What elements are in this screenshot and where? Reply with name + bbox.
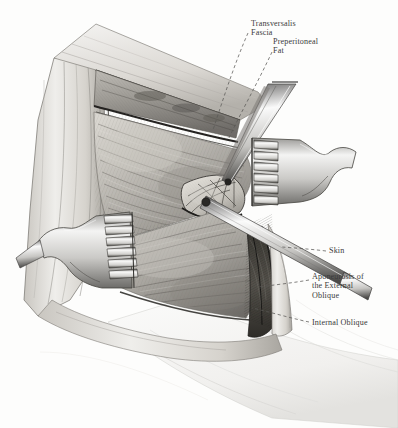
label-transversalis-fascia: Transversalis Fascia	[251, 19, 296, 38]
surgical-illustration	[0, 0, 398, 428]
illustration-plate: Transversalis Fascia Preperitoneal Fat S…	[0, 0, 398, 428]
label-skin: Skin	[329, 246, 344, 255]
label-preperitoneal-fat: Preperitoneal Fat	[273, 37, 318, 56]
label-internal-oblique: Internal Oblique	[312, 318, 368, 327]
label-aponeurosis-external-oblique: Aponeurosis of the External Oblique	[312, 272, 364, 300]
